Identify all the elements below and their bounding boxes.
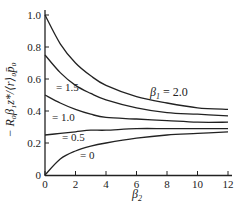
chart: 02468101200.20.40.60.81.0 β1 = 2.0 = 1.5… bbox=[0, 0, 248, 207]
y-axis-label: − R₀β₁z*/⟨r⟩₀p̄₀ bbox=[3, 62, 17, 137]
annotation-1-0: = 1.0 bbox=[52, 111, 75, 123]
svg-text:12: 12 bbox=[223, 178, 234, 190]
svg-text:0: 0 bbox=[42, 178, 48, 190]
annotation-beta1-2: β1 = 2.0 bbox=[149, 85, 188, 101]
svg-text:0.8: 0.8 bbox=[27, 41, 41, 53]
annotation-0-5: = 0.5 bbox=[62, 131, 85, 143]
svg-text:8: 8 bbox=[164, 178, 170, 190]
svg-text:0.4: 0.4 bbox=[27, 105, 41, 117]
svg-text:4: 4 bbox=[103, 178, 109, 190]
curve-line bbox=[45, 15, 228, 109]
curves bbox=[45, 15, 228, 175]
annotation-1-5: = 1.5 bbox=[56, 81, 79, 93]
svg-text:1.0: 1.0 bbox=[27, 9, 41, 21]
annotation-0: = 0 bbox=[80, 149, 95, 161]
ticks: 02468101200.20.40.60.81.0 bbox=[27, 9, 233, 190]
svg-text:0.6: 0.6 bbox=[27, 73, 41, 85]
svg-text:10: 10 bbox=[192, 178, 204, 190]
x-axis-label: β2 bbox=[131, 187, 142, 203]
svg-text:0.2: 0.2 bbox=[27, 137, 41, 149]
svg-text:0: 0 bbox=[36, 169, 42, 181]
svg-text:2: 2 bbox=[73, 178, 79, 190]
